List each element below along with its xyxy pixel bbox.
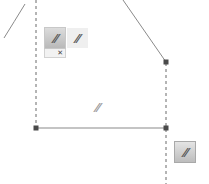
parallel-constraint-icon: // <box>182 147 188 158</box>
sketch-line-diagonal[interactable] <box>123 0 166 62</box>
parallel-constraint-button[interactable]: // <box>67 28 88 48</box>
vertex-bottom-left[interactable] <box>34 126 39 131</box>
sketch-curve-left[interactable] <box>4 4 25 38</box>
parallel-constraint-icon: // <box>94 102 100 113</box>
parallel-constraint-icon: // <box>52 33 58 44</box>
parallel-constraint-button-selected[interactable]: // <box>44 27 66 49</box>
constraint-submenu[interactable]: ✕ <box>44 49 66 58</box>
vertex-bottom-right[interactable] <box>164 126 169 131</box>
parallel-label-middle[interactable]: // <box>90 101 104 113</box>
parallel-constraint-corner-button[interactable]: // <box>174 141 196 163</box>
parallel-constraint-icon: // <box>74 33 80 44</box>
vertex-top-right[interactable] <box>164 60 169 65</box>
delete-constraint-icon[interactable]: ✕ <box>57 49 63 57</box>
